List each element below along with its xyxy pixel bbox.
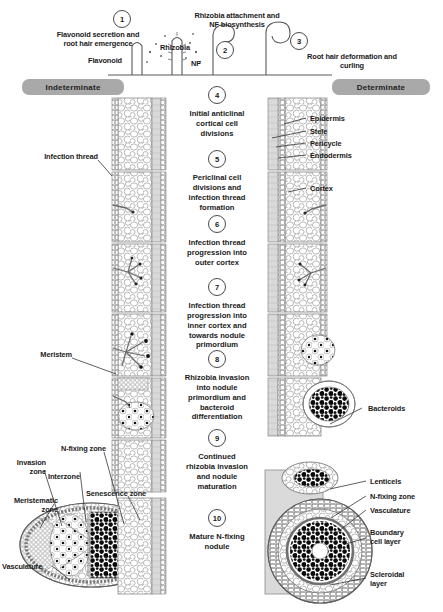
- label-bacteroids: Bacteroids: [368, 404, 432, 413]
- label-vasculature-right: Vasculature: [370, 506, 438, 515]
- label-endodermis: Endodermis: [310, 151, 376, 160]
- step-circle-1: 1: [113, 10, 131, 28]
- label-rhizobia: Rhizobia: [160, 43, 214, 52]
- step-label-6: Infection thread progression into outer …: [163, 238, 271, 268]
- step-label-3: Root hair deformation and curling: [268, 52, 436, 71]
- label-lenticels: Lenticels: [370, 477, 428, 486]
- step-label-9: Continued rhizobia invasion and nodule m…: [163, 452, 271, 491]
- step-label-7: Infection thread progression into inner …: [163, 301, 271, 350]
- label-scleroidal-layer: Scleroidal layer: [370, 570, 432, 589]
- step-label-5: Periclinal cell divisions and infection …: [163, 173, 271, 212]
- label-cortex: Cortex: [310, 184, 354, 193]
- header-badge-indeterminate: Indeterminate: [22, 79, 124, 95]
- label-infection-thread: Infection thread: [18, 152, 98, 161]
- label-epidermis: Epidermis: [310, 114, 370, 123]
- label-flavonoid: Flavonoid: [52, 56, 122, 65]
- step-circle-2: 2: [216, 41, 234, 59]
- step-circle-3: 3: [290, 32, 308, 50]
- label-senescence-zone: Senescence zone: [86, 489, 166, 498]
- step-circle-6: 6: [208, 215, 226, 233]
- step-circle-10: 10: [208, 509, 226, 527]
- step-circle-4: 4: [208, 86, 226, 104]
- label-meristematic-zone: Meristematic zone: [2, 496, 58, 515]
- label-n-fixing-zone-left: N-fixing zone: [28, 444, 106, 453]
- label-boundary-cell-layer: Boundary cell layer: [370, 528, 436, 547]
- header-badge-determinate: Determinate: [332, 79, 430, 95]
- label-meristem: Meristem: [18, 350, 72, 359]
- step-circle-7: 7: [208, 278, 226, 296]
- step-label-8: Rhizobia invasion into nodule primordium…: [163, 373, 271, 422]
- label-nf: NF: [191, 59, 211, 68]
- step-circle-8: 8: [208, 350, 226, 368]
- label-stele: Stele: [310, 127, 354, 136]
- label-n-fixing-zone-right: N-fixing zone: [370, 492, 442, 501]
- label-invasion-zone: Invasion zone: [10, 458, 46, 477]
- step-label-10: Mature N-fixing nodule: [163, 532, 271, 552]
- step-circle-5: 5: [208, 150, 226, 168]
- step-label-1: Flavonoid secretion and root hair emerge…: [30, 30, 166, 49]
- step-label-4: Initial anticlinal cortical cell divisio…: [163, 109, 271, 139]
- step-label-2: Rhizobia attachment and NF biosynthesis: [168, 11, 306, 30]
- label-pericycle: Pericycle: [310, 139, 368, 148]
- label-interzone: Interzone: [48, 472, 92, 481]
- label-vasculature-left: Vasculature: [2, 562, 58, 571]
- nodule-development-figure: Indeterminate Determinate 1 Flavonoid se…: [0, 0, 443, 612]
- step-circle-9: 9: [208, 429, 226, 447]
